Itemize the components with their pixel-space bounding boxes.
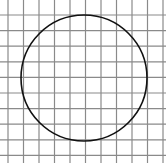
grid-circle-diagram [0, 0, 166, 163]
background [0, 0, 166, 163]
